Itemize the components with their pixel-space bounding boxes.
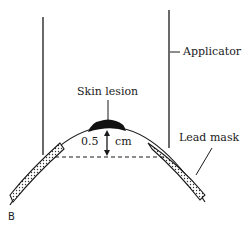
skin-lesion-label: Skin lesion <box>77 86 138 97</box>
depth-arrow-head-down <box>104 150 110 156</box>
depth-arrow-head-up <box>104 130 110 136</box>
lead-mask-label: Lead mask <box>179 132 239 143</box>
applicator-label: Applicator <box>183 46 241 57</box>
distance-value-label: 0.5 <box>81 136 99 147</box>
distance-unit-label: cm <box>115 136 132 147</box>
lead-mask-leader-line <box>196 148 212 175</box>
lead-mask-right <box>148 143 205 200</box>
panel-label: B <box>8 212 15 222</box>
diagram-canvas <box>0 0 249 226</box>
lead-mask-left <box>10 143 64 202</box>
